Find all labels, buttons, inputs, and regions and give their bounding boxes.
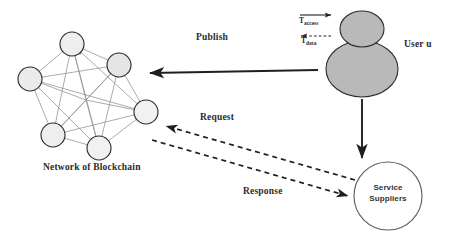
t-data-subscript: data xyxy=(306,40,316,46)
user-head xyxy=(340,11,384,47)
service-suppliers-line-2: Suppliers xyxy=(348,193,428,204)
response-label: Response xyxy=(243,186,283,196)
t-access-label: Taccess xyxy=(299,16,318,25)
user-figure xyxy=(326,11,398,97)
t-access-subscript: access xyxy=(304,20,318,26)
network-of-blockchain-label: Network of Blockchain xyxy=(43,162,141,172)
user-body xyxy=(326,41,398,97)
user-label: User u xyxy=(404,39,432,49)
blockchain-node-left xyxy=(18,67,42,91)
blockchain-node-bottom xyxy=(87,136,111,160)
blockchain-node-right xyxy=(134,100,158,124)
service-suppliers-line-1: Service xyxy=(348,182,428,193)
diagram-canvas: Publish Request Response Network of Bloc… xyxy=(0,0,451,242)
publish-arrow xyxy=(150,70,318,73)
publish-label: Publish xyxy=(196,32,228,42)
request-label: Request xyxy=(200,112,234,122)
request-arrow xyxy=(166,126,355,180)
t-data-label: Tdata xyxy=(301,36,316,45)
blockchain-node-upper-right xyxy=(107,53,131,77)
blockchain-node-top xyxy=(60,32,84,56)
blockchain-node-lower-left xyxy=(41,123,65,147)
service-suppliers-label: Service Suppliers xyxy=(348,182,428,204)
